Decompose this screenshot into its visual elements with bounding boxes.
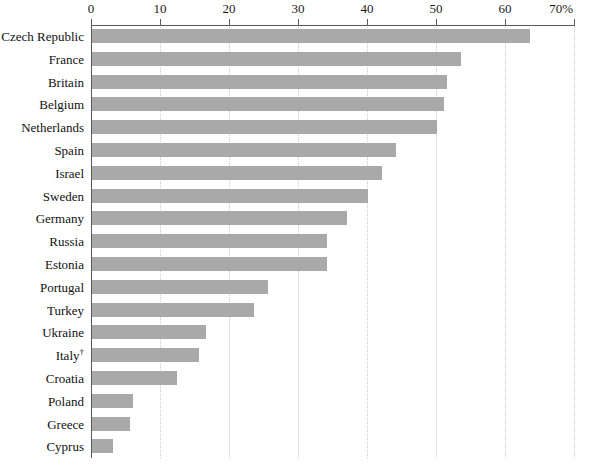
gridline-40 (367, 25, 369, 458)
bar (92, 120, 437, 134)
bar (92, 29, 530, 43)
category-label: Portugal (0, 281, 84, 295)
bar-chart: 010203040506070% Czech RepublicFranceBri… (0, 0, 596, 466)
tick-label-10: 10 (154, 2, 167, 16)
tick-label-30: 30 (292, 2, 305, 16)
bar (92, 234, 327, 248)
x-axis-line (91, 25, 575, 26)
category-label: Czech Republic (0, 30, 84, 44)
category-label: Estonia (0, 258, 84, 272)
category-label: Germany (0, 212, 84, 226)
tick-mark-30 (298, 19, 299, 25)
bar (92, 166, 382, 180)
category-label: France (0, 53, 84, 67)
category-label: Greece (0, 418, 84, 432)
category-label: Britain (0, 76, 84, 90)
bar (92, 52, 461, 66)
category-label: Netherlands (0, 121, 84, 135)
category-label: Poland (0, 395, 84, 409)
gridline-50 (436, 25, 438, 458)
tick-mark-70 (574, 19, 575, 25)
tick-label-60: 60 (499, 2, 512, 16)
gridline-70 (574, 25, 576, 458)
category-label: Russia (0, 235, 84, 249)
bar (92, 75, 447, 89)
tick-mark-10 (160, 19, 161, 25)
bar (92, 439, 113, 453)
category-label: Ukraine (0, 326, 84, 340)
category-label: Spain (0, 144, 84, 158)
bar (92, 189, 368, 203)
bar (92, 97, 444, 111)
category-label: Croatia (0, 372, 84, 386)
category-label: Cyprus (0, 440, 84, 454)
tick-label-50: 50 (430, 2, 443, 16)
tick-mark-20 (229, 19, 230, 25)
tick-label-70: 70% (549, 2, 574, 16)
category-label: Israel (0, 167, 84, 181)
plot-area (91, 25, 574, 458)
bar (92, 371, 177, 385)
category-label: Sweden (0, 190, 84, 204)
tick-mark-40 (367, 19, 368, 25)
bar (92, 280, 268, 294)
bar (92, 394, 133, 408)
bar (92, 417, 130, 431)
tick-label-0: 0 (88, 2, 95, 16)
tick-mark-0 (91, 19, 92, 25)
bar (92, 211, 347, 225)
gridline-60 (505, 25, 507, 458)
bar (92, 303, 254, 317)
tick-mark-60 (505, 19, 506, 25)
footnote-marker: † (80, 347, 85, 357)
category-label: Italy† (0, 349, 84, 363)
bar (92, 143, 396, 157)
category-label: Belgium (0, 98, 84, 112)
bar (92, 348, 199, 362)
tick-label-40: 40 (361, 2, 374, 16)
tick-mark-50 (436, 19, 437, 25)
bar (92, 257, 327, 271)
category-label: Turkey (0, 304, 84, 318)
bar (92, 325, 206, 339)
tick-label-20: 20 (223, 2, 236, 16)
